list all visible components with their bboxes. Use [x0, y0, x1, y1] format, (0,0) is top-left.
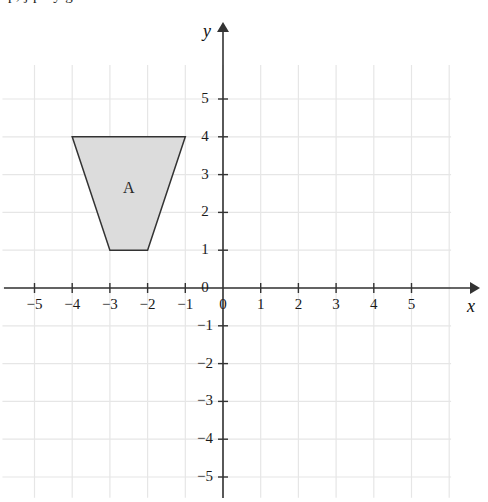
x-tick-label-2: 2 [278, 297, 318, 312]
coordinate-plane [0, 0, 488, 502]
y-tick-label--2: −2 [185, 356, 225, 371]
axis-lines [4, 22, 480, 498]
x-tick-label--1: −1 [165, 297, 205, 312]
y-axis-label: y [203, 22, 211, 40]
x-tick-label-5: 5 [392, 297, 432, 312]
x-tick-label-3: 3 [316, 297, 356, 312]
y-tick-label--3: −3 [185, 393, 225, 408]
x-tick-label--4: −4 [52, 297, 92, 312]
y-tick-label-2: 2 [185, 204, 225, 219]
x-tick-label--5: −5 [15, 297, 55, 312]
y-tick-label-1: 1 [185, 242, 225, 257]
y-tick-label--1: −1 [185, 318, 225, 333]
origin-label-x: 0 [203, 297, 243, 312]
y-tick-label-5: 5 [185, 91, 225, 106]
y-tick-label--5: −5 [185, 469, 225, 484]
x-axis-label: x [467, 297, 475, 315]
x-tick-label-4: 4 [354, 297, 394, 312]
x-tick-label-1: 1 [241, 297, 281, 312]
graph-page: p, j p . y g y x 0 0 −5−4−3−2−1123455432… [0, 0, 488, 502]
y-tick-label--4: −4 [185, 431, 225, 446]
x-tick-label--2: −2 [128, 297, 168, 312]
y-tick-label-4: 4 [185, 129, 225, 144]
origin-label-y: 0 [185, 280, 225, 295]
y-tick-label-3: 3 [185, 167, 225, 182]
shape-label-a: A [109, 180, 149, 196]
grid-lines [2, 65, 451, 498]
x-tick-label--3: −3 [90, 297, 130, 312]
